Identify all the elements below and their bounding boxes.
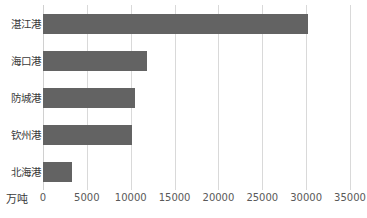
bar <box>43 88 135 108</box>
x-tick-label: 5000 <box>74 192 99 203</box>
bar <box>43 14 308 34</box>
x-tick-label: 10000 <box>115 192 147 203</box>
x-tick-label: 30000 <box>290 192 322 203</box>
x-tick-label: 25000 <box>246 192 278 203</box>
category-axis-labels: 湛江港海口港防城港钦州港北海港 <box>0 5 41 190</box>
category-label: 钦州港 <box>1 129 41 141</box>
bar-chart: 湛江港海口港防城港钦州港北海港 050001000015000200002500… <box>0 0 367 218</box>
bar <box>43 51 147 71</box>
category-label: 湛江港 <box>1 18 41 30</box>
x-tick-label: 0 <box>40 192 46 203</box>
bar <box>43 125 132 145</box>
category-label: 海口港 <box>1 55 41 67</box>
x-tick-label: 20000 <box>203 192 235 203</box>
x-tick-label: 35000 <box>334 192 366 203</box>
gridline <box>350 5 351 190</box>
category-label: 防城港 <box>1 92 41 104</box>
category-label: 北海港 <box>1 166 41 178</box>
unit-label: 万吨 <box>6 190 28 206</box>
bar <box>43 162 72 182</box>
x-tick-label: 15000 <box>159 192 191 203</box>
